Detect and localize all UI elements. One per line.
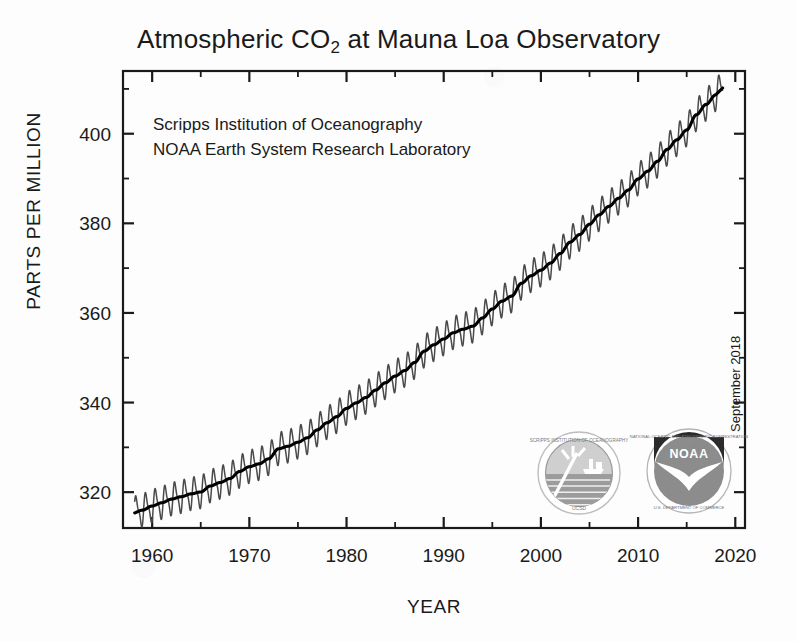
noaa-ring-text-top: NATIONAL OCEANIC AND ATMOSPHERIC ADMINIS… [630,434,748,439]
scripps-ring-text: SCRIPPS INSTITUTION OF OCEANOGRAPHY [530,438,629,443]
x-tick-label: 2020 [714,545,756,566]
x-tick-label: 1980 [325,545,367,566]
scripps-logo-icon: SCRIPPS INSTITUTION OF OCEANOGRAPHYUCSD [530,432,629,514]
x-tick-label: 2010 [617,545,659,566]
noaa-logo-icon: NOAANATIONAL OCEANIC AND ATMOSPHERIC ADM… [630,429,748,513]
y-tick-label: 360 [79,303,111,324]
x-tick-label: 2000 [520,545,562,566]
co2-line-chart: 1960197019801990200020102020320340360380… [0,0,797,642]
scripps-bottom-text: UCSD [572,505,587,511]
noaa-ring-text-bottom: U.S. DEPARTMENT OF COMMERCE [654,505,725,510]
scripps-ship-mast [589,459,593,469]
seasonal-cycle-line [135,75,723,527]
y-tick-label: 380 [79,213,111,234]
trend-line [135,88,723,513]
y-tick-label: 320 [79,482,111,503]
x-tick-label: 1970 [228,545,270,566]
y-tick-label: 340 [79,393,111,414]
x-tick-label: 1960 [131,545,173,566]
y-tick-label: 400 [79,124,111,145]
x-tick-label: 1990 [423,545,465,566]
noaa-wordmark: NOAA [669,447,708,461]
scripps-ship-hull [583,469,604,474]
scripps-ship-cabin [596,462,602,469]
